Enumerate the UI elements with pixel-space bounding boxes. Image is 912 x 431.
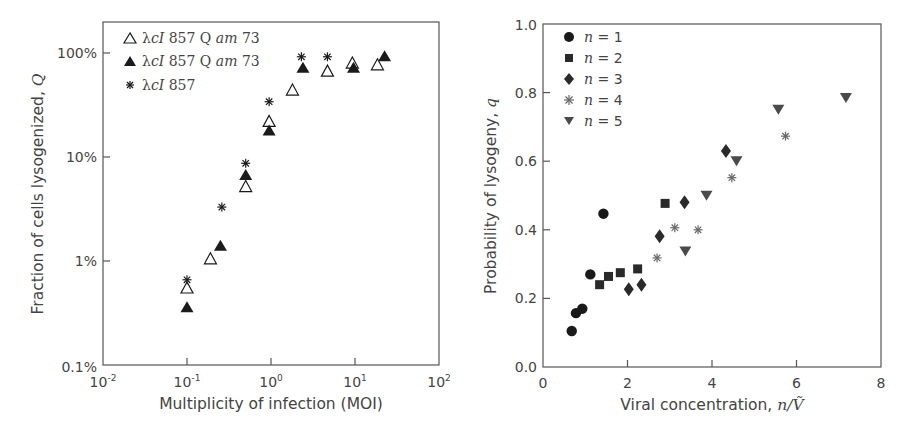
right-ytick-label: 1.0	[515, 17, 537, 33]
filled-triangle-marker	[296, 62, 309, 73]
square-marker	[595, 280, 604, 289]
left-xtick-label: 102	[427, 373, 451, 390]
right-ytick-label: 0.6	[515, 153, 537, 169]
left-ytick-label: 0.1%	[61, 359, 97, 375]
left-xtick-label: 100	[259, 373, 283, 390]
right-legend: n = 1 n = 2 n = 3 n = 4 n = 5	[564, 29, 623, 129]
down-triangle-marker	[701, 191, 713, 201]
left-xtick-label: 10-2	[90, 373, 117, 390]
open-triangle-marker	[321, 65, 333, 76]
down-triangle-marker	[679, 246, 691, 256]
left-ytick-label: 1%	[75, 253, 97, 269]
right-x-axis-title: Viral concentration, n/Ṽ	[620, 396, 805, 414]
left-ytick-label: 100%	[57, 45, 97, 61]
down-triangle-marker	[731, 156, 743, 166]
diamond-marker	[655, 229, 665, 243]
open-triangle-marker	[240, 181, 252, 192]
filled-triangle-marker	[378, 50, 391, 61]
filled-triangle-icon	[124, 56, 136, 66]
right-y-axis-title: Probability of lysogeny, q	[482, 98, 500, 294]
figure: 100% 10% 1% 0.1% 10-2 10-1 100 101 102 M…	[0, 0, 912, 431]
right-chart: 1.0 0.8 0.6 0.4 0.2 0.0 0 2 4 6 8 Viral …	[482, 17, 885, 414]
down-triangle-marker	[840, 93, 852, 103]
asterisk-marker	[217, 203, 226, 212]
filled-triangle-marker	[214, 240, 227, 251]
circle-marker-icon	[564, 32, 574, 42]
diamond-marker	[636, 278, 646, 292]
right-ytick-label: 0.8	[515, 85, 537, 101]
open-triangle-marker	[286, 84, 298, 95]
legend-label: n = 4	[584, 92, 623, 108]
filled-triangle-marker	[239, 169, 252, 180]
asterisk-marker-icon	[564, 95, 574, 105]
right-xtick-label: 4	[708, 375, 717, 391]
right-xtick-label: 0	[539, 375, 548, 391]
asterisk-marker	[781, 132, 790, 141]
right-xtick-label: 2	[623, 375, 632, 391]
left-ytick-label: 10%	[66, 149, 97, 165]
left-xtick-labels: 10-2 10-1 100 101 102	[90, 373, 451, 390]
down-triangle-marker-icon	[564, 117, 574, 125]
left-y-axis-title: Fraction of cells lysogenized, Q	[29, 73, 47, 314]
left-plot-frame	[103, 22, 439, 365]
diamond-marker	[624, 282, 634, 296]
asterisk-marker	[727, 173, 736, 182]
asterisk-marker	[694, 225, 703, 234]
asterisk-marker	[241, 159, 250, 168]
legend-label: n = 3	[584, 71, 623, 87]
square-marker-icon	[565, 54, 573, 62]
left-xtick-label: 10-1	[174, 373, 201, 390]
square-marker	[633, 264, 642, 273]
asterisk-icon	[126, 81, 134, 89]
filled-triangle-marker	[181, 301, 194, 312]
legend-label: λcI 857	[142, 77, 195, 93]
diamond-marker	[721, 144, 731, 158]
diamond-marker	[680, 195, 690, 209]
left-xtick-label: 101	[343, 373, 367, 390]
square-marker	[616, 268, 625, 277]
left-legend: λcI 857 Q am 73 λcI 857 Q am 73 λcI 857	[124, 30, 260, 93]
circle-marker	[585, 269, 595, 279]
legend-label: λcI 857 Q am 73	[142, 53, 260, 69]
legend-label: n = 5	[584, 113, 623, 129]
legend-label: λcI 857 Q am 73	[142, 30, 260, 46]
asterisk-marker	[183, 275, 192, 284]
open-triangle-icon	[124, 33, 136, 43]
open-triangle-marker	[204, 253, 216, 264]
right-xtick-label: 6	[792, 375, 801, 391]
asterisk-marker	[653, 253, 662, 262]
asterisk-marker	[297, 52, 306, 61]
right-data-points	[567, 93, 852, 336]
square-marker	[661, 199, 670, 208]
left-x-axis-title: Multiplicity of infection (MOI)	[159, 395, 383, 413]
right-ytick-label: 0.2	[515, 290, 537, 306]
diamond-marker-icon	[564, 73, 574, 85]
asterisk-marker	[323, 52, 332, 61]
asterisk-marker	[265, 97, 274, 106]
right-ytick-label: 0.4	[515, 222, 537, 238]
left-chart: 100% 10% 1% 0.1% 10-2 10-1 100 101 102 M…	[29, 22, 451, 413]
circle-marker	[567, 326, 577, 336]
legend-label: n = 1	[584, 29, 623, 45]
asterisk-marker	[670, 223, 679, 232]
right-xtick-label: 8	[877, 375, 886, 391]
left-data-points	[181, 50, 392, 312]
circle-marker	[598, 208, 608, 218]
right-ytick-label: 0.0	[515, 359, 537, 375]
legend-label: n = 2	[584, 50, 623, 66]
down-triangle-marker	[772, 105, 784, 115]
square-marker	[604, 272, 613, 281]
circle-marker	[577, 303, 587, 313]
